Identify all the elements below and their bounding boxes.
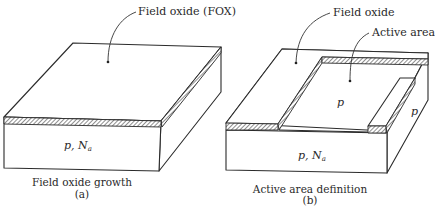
diagram-canvas: Field oxide (FOX) p, Na Field oxide grow… — [0, 0, 435, 206]
figure-b-wafer — [226, 49, 428, 173]
side-p-label: p — [411, 105, 418, 118]
field-oxide-left-front — [226, 123, 278, 130]
field-oxide-right-bar-front — [368, 126, 386, 133]
field-oxide-callout-label: Field oxide — [333, 6, 395, 19]
active-area-callout-label: Active area — [371, 26, 435, 39]
fox-callout-label: Field oxide (FOX) — [138, 5, 236, 18]
active-area-p-label: p — [337, 96, 344, 109]
caption-id-a: (a) — [75, 188, 89, 200]
caption-a: Field oxide growth — [32, 176, 132, 188]
figure-a-wafer — [4, 43, 221, 171]
caption-id-b: (b) — [303, 194, 318, 206]
